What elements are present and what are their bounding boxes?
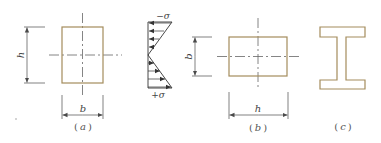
stray-mark <box>15 118 16 119</box>
caption-c: (c) <box>334 121 352 132</box>
compression-label: −σ <box>156 11 171 21</box>
width-label: h <box>255 103 261 114</box>
stress-distribution-diagram: −σ +σ <box>148 11 172 100</box>
caption-a: (a) <box>74 121 92 132</box>
width-label: b <box>80 103 86 114</box>
caption-b: (b) <box>249 122 267 133</box>
i-beam-outline <box>320 27 365 89</box>
figure-c-i-beam-section: (c) <box>320 27 365 132</box>
cross-section-diagram: h b (a) −σ +σ b <box>0 0 381 143</box>
stress-triangles <box>148 22 172 88</box>
figure-a-rectangle-section: h b (a) <box>15 13 122 132</box>
height-label: b <box>183 53 194 59</box>
figure-b-rectangle-section: b h (b) <box>183 18 300 133</box>
tension-label: +σ <box>151 90 166 100</box>
height-label: h <box>15 52 26 58</box>
